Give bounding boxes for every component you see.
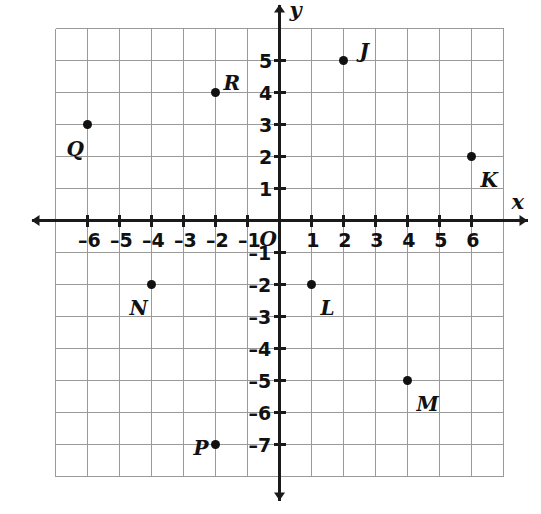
point-label-j: J bbox=[360, 41, 369, 61]
coordinate-plane-figure: –6–5–4–3–2–112345654321–1–2–3–4–5–6–7 JK… bbox=[0, 0, 541, 514]
y-tick-label: 2 bbox=[259, 148, 272, 167]
point-label-q: Q bbox=[67, 139, 84, 159]
y-tick-label: –4 bbox=[249, 340, 272, 359]
x-axis-arrow-left bbox=[32, 215, 40, 226]
plot-point-m bbox=[403, 376, 412, 385]
y-tick-label: –2 bbox=[249, 276, 272, 295]
x-tick-label: –6 bbox=[78, 231, 101, 250]
plot-point-r bbox=[211, 88, 220, 97]
point-label-m: M bbox=[417, 394, 439, 414]
y-tick-label: –5 bbox=[249, 372, 272, 391]
y-tick-label: –3 bbox=[249, 308, 272, 327]
point-label-p: P bbox=[194, 438, 209, 458]
x-tick-label: 6 bbox=[466, 231, 479, 250]
y-tick-label: –7 bbox=[249, 436, 272, 455]
plot-point-n bbox=[147, 280, 156, 289]
y-tick-label: –6 bbox=[249, 404, 272, 423]
y-tick-label: 3 bbox=[259, 116, 272, 135]
plot-point-j bbox=[339, 56, 348, 65]
x-tick-label: 5 bbox=[434, 231, 447, 250]
x-tick-label: –5 bbox=[110, 231, 133, 250]
y-axis-arrow-down bbox=[274, 493, 285, 501]
point-label-n: N bbox=[130, 298, 148, 318]
x-tick-label: 1 bbox=[306, 231, 319, 250]
y-tick-label: 4 bbox=[259, 84, 272, 103]
x-tick-label: 4 bbox=[402, 231, 415, 250]
x-tick-label: 3 bbox=[370, 231, 383, 250]
x-tick-label: –2 bbox=[206, 231, 229, 250]
x-tick-label: –3 bbox=[174, 231, 197, 250]
point-label-k: K bbox=[481, 170, 498, 190]
point-label-r: R bbox=[224, 73, 241, 93]
y-tick-label: 5 bbox=[259, 52, 272, 71]
x-axis-label: x bbox=[512, 191, 525, 212]
plot-point-l bbox=[307, 280, 316, 289]
x-axis-arrow-right bbox=[520, 215, 528, 226]
plot-point-p bbox=[211, 440, 220, 449]
origin-label: O bbox=[260, 229, 277, 249]
y-tick-label: 1 bbox=[259, 180, 272, 199]
y-axis-label: y bbox=[290, 0, 302, 20]
plot-point-q bbox=[83, 120, 92, 129]
x-tick-label: –4 bbox=[142, 231, 165, 250]
plot-point-k bbox=[467, 152, 476, 161]
x-tick-label: 2 bbox=[338, 231, 351, 250]
y-axis-arrow-up bbox=[274, 5, 285, 13]
point-label-l: L bbox=[321, 298, 335, 318]
